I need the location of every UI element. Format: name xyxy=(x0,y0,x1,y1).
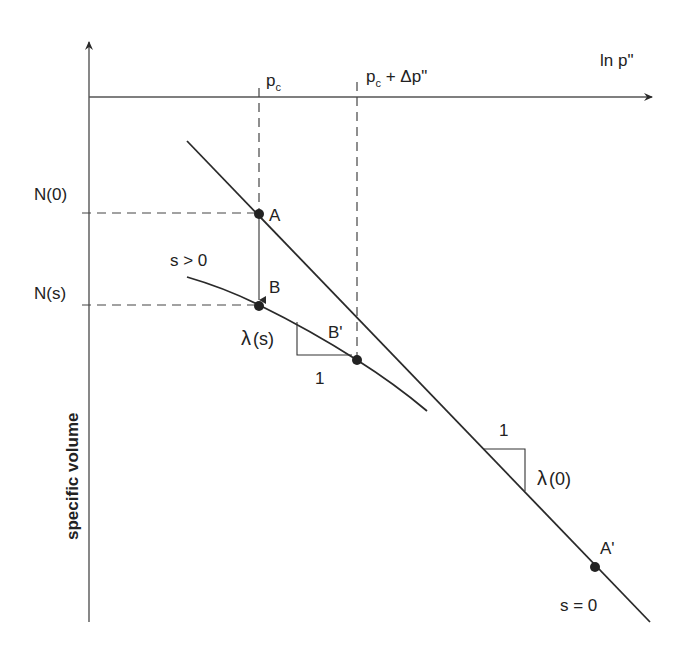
point-a-prime-label: A' xyxy=(600,539,615,558)
lambda-s-label: λ(s) xyxy=(241,327,274,349)
point-b-label: B xyxy=(269,278,280,297)
lambda-0-label: λ(0) xyxy=(537,467,571,489)
x-axis-label: ln p" xyxy=(600,51,633,70)
y-axis-label: specific volume xyxy=(63,412,82,540)
lambda-s-triangle xyxy=(297,322,352,355)
point-a-label: A xyxy=(269,206,281,225)
point-b-prime-label: B' xyxy=(328,323,343,342)
unsaturated-label: s > 0 xyxy=(170,251,207,270)
pc-label: pc xyxy=(266,71,281,93)
lambda-0-run-label: 1 xyxy=(499,421,508,440)
lambda-s-run-label: 1 xyxy=(315,369,324,388)
point-b xyxy=(254,301,264,311)
n0-label: N(0) xyxy=(34,185,67,204)
ns-label: N(s) xyxy=(34,284,66,303)
compression-diagram: ln p" specific volume pc pc + Δp" N(0) N… xyxy=(0,0,684,652)
saturated-label: s = 0 xyxy=(560,596,597,615)
guide-lines xyxy=(82,82,357,360)
point-a-prime xyxy=(590,562,600,572)
unsaturated-curve xyxy=(187,277,427,411)
point-b-prime xyxy=(352,355,362,365)
point-a xyxy=(254,209,264,219)
pc-plus-label: pc + Δp" xyxy=(366,67,427,89)
